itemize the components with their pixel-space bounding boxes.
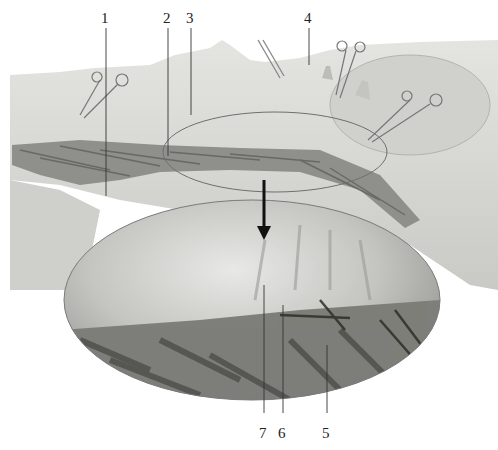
breast-mound [330, 55, 490, 155]
label-5: 5 [322, 425, 330, 441]
label-4: 4 [304, 10, 312, 26]
label-6: 6 [278, 425, 286, 441]
anatomical-figure: 1 2 3 4 5 6 7 [0, 0, 498, 450]
label-7: 7 [259, 425, 267, 441]
label-2: 2 [163, 10, 171, 26]
magnified-inset [60, 200, 440, 410]
label-3: 3 [186, 10, 194, 26]
label-1: 1 [101, 10, 109, 26]
